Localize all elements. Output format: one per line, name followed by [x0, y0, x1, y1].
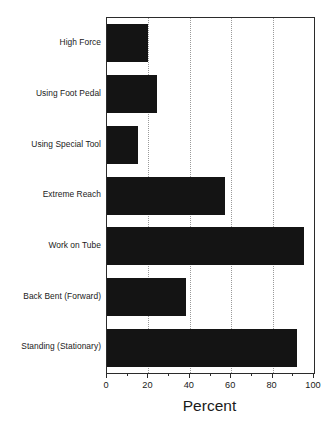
x-tick-minor-90: [292, 373, 293, 376]
category-label: Work on Tube: [0, 241, 101, 249]
category-label: Extreme Reach: [0, 190, 101, 198]
x-tick-minor-30: [168, 373, 169, 376]
bar: [107, 126, 138, 164]
category-label: Using Special Tool: [0, 140, 101, 148]
x-tick-major-20: [147, 373, 148, 378]
bar: [107, 75, 157, 113]
category-label: High Force: [0, 38, 101, 46]
category-label: Standing (Stationary): [0, 342, 101, 350]
x-axis-ticks: [106, 373, 313, 379]
bar: [107, 24, 148, 62]
category-axis: High ForceUsing Foot PedalUsing Special …: [0, 17, 101, 372]
x-tick-major-100: [313, 373, 314, 378]
x-tick-major-60: [230, 373, 231, 378]
x-tick-label: 40: [184, 381, 194, 390]
bar: [107, 278, 186, 316]
bars-layer: [107, 18, 314, 373]
x-tick-label: 60: [225, 381, 235, 390]
x-tick-major-80: [272, 373, 273, 378]
category-label: Using Foot Pedal: [0, 89, 101, 97]
x-axis-title: Percent: [106, 398, 313, 414]
x-axis-tick-labels: 020406080100: [106, 381, 313, 395]
x-tick-major-0: [106, 373, 107, 378]
bar: [107, 177, 225, 215]
bar-chart: High ForceUsing Foot PedalUsing Special …: [0, 0, 331, 424]
x-tick-label: 80: [266, 381, 276, 390]
bar: [107, 227, 304, 265]
x-tick-minor-50: [210, 373, 211, 376]
x-tick-major-40: [189, 373, 190, 378]
category-label: Back Bent (Forward): [0, 292, 101, 300]
x-tick-label: 0: [103, 381, 108, 390]
x-tick-minor-70: [251, 373, 252, 376]
plot-area: [106, 17, 315, 374]
x-tick-label: 100: [305, 381, 320, 390]
bar: [107, 329, 297, 367]
x-tick-label: 20: [142, 381, 152, 390]
x-tick-minor-10: [127, 373, 128, 376]
